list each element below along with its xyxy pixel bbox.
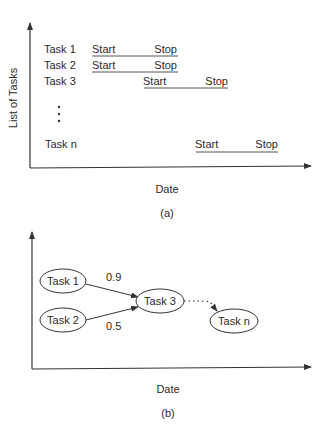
stop-label: Stop <box>154 59 177 71</box>
task-label: Task 3 <box>44 75 76 87</box>
node-task1: Task 1 <box>40 269 86 293</box>
stop-label: Stop <box>255 138 278 150</box>
dotted-arrow-head-icon <box>213 306 217 311</box>
node-label: Task 1 <box>47 275 79 287</box>
x-axis-arrow-icon <box>30 166 311 168</box>
x-axis-arrow-icon <box>32 367 311 369</box>
figure-b: 0.9 0.5 Task 1 Task 2 Task 3 Task n Date… <box>32 232 311 419</box>
figure-canvas: List of Tasks Task 1 Start Stop Task 2 S… <box>0 0 324 433</box>
task-label: Task 1 <box>44 43 76 55</box>
figure-caption: (b) <box>161 407 174 419</box>
edge-weight: 0.5 <box>106 320 121 332</box>
start-label: Start <box>143 75 166 87</box>
node-label: Task 3 <box>144 295 176 307</box>
x-axis-label: Date <box>156 383 179 395</box>
node-task2: Task 2 <box>40 308 86 332</box>
ellipsis-dots-icon <box>58 106 60 122</box>
node-label: Task n <box>218 315 250 327</box>
task-label: Task n <box>45 138 77 150</box>
figure-a: List of Tasks Task 1 Start Stop Task 2 S… <box>7 23 311 219</box>
start-label: Start <box>92 59 115 71</box>
edge-weight: 0.9 <box>106 271 121 283</box>
start-label: Start <box>195 138 218 150</box>
edge-task2-task3 <box>86 307 138 320</box>
y-axis-label: List of Tasks <box>7 67 19 128</box>
node-taskn: Task n <box>210 309 258 333</box>
node-label: Task 2 <box>47 314 79 326</box>
node-task3: Task 3 <box>136 289 184 313</box>
task-label: Task 2 <box>44 59 76 71</box>
figure-caption: (a) <box>160 207 173 219</box>
stop-label: Stop <box>205 75 228 87</box>
edge-task1-task3 <box>86 284 138 297</box>
stop-label: Stop <box>154 43 177 55</box>
x-axis-label: Date <box>155 183 178 195</box>
start-label: Start <box>92 43 115 55</box>
edge-task3-taskn <box>184 301 214 307</box>
